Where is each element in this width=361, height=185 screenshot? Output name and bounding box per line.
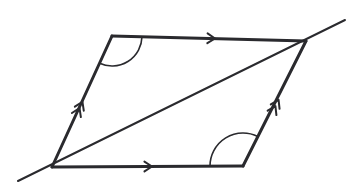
diagram-background — [0, 0, 361, 185]
parallelogram-diagram — [0, 0, 361, 185]
parallelogram-bottom-side — [52, 166, 243, 167]
geometry-diagram-canvas — [0, 0, 361, 185]
